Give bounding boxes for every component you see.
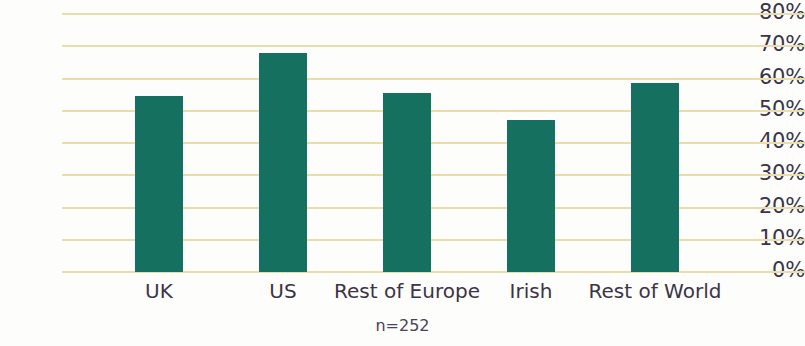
x-axis-tick-label: UK [145,278,173,304]
x-axis-tick-label: Rest of Europe [334,278,480,304]
x-axis-tick-label: Irish [510,278,553,304]
bar-rest-of-europe [383,93,431,272]
bar-chart: 80% 70% 60% 50% 40% 30% 20% 10% 0% UK US… [0,0,805,346]
sample-size-annotation: n=252 [0,316,805,336]
bar-uk [135,96,183,272]
bar-irish [507,120,555,272]
bar-us [259,53,307,272]
bar-rest-of-world [631,83,679,272]
bars-layer [62,14,805,272]
x-axis-tick-label: Rest of World [589,278,722,304]
x-axis-tick-label: US [269,278,296,304]
x-axis-tick-labels: UK US Rest of Europe Irish Rest of World [0,278,805,308]
